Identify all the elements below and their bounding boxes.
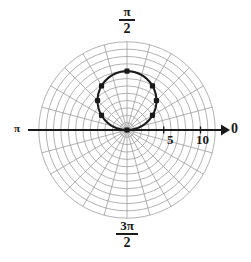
data-point-marker [99,83,104,88]
data-point-marker [154,98,159,103]
angle-label-pi-over-2-numerator: π [109,5,145,18]
grid-spoke [51,130,127,174]
grid-spoke [127,130,203,174]
polar-plot-figure: π 2 3π 2 π 0 5 10 [0,0,251,262]
data-point-marker [150,113,155,118]
angle-label-3pi-over-2-numerator: 3π [107,219,147,232]
radial-tick-label-10: 10 [196,132,209,148]
grid-spoke [127,130,189,192]
grid-spoke [83,130,127,206]
grid-spoke [127,130,171,206]
angle-label-pi-over-2-denominator: 2 [109,22,145,36]
angle-label-zero: 0 [231,121,238,137]
data-point-marker [124,127,129,132]
radial-tick-label-5: 5 [167,132,174,148]
data-point-marker [99,113,104,118]
angle-label-pi-over-2: π 2 [109,5,145,36]
data-point-marker [95,98,100,103]
angle-label-3pi-over-2-denominator: 2 [107,236,147,250]
data-point-marker [124,69,129,74]
angle-label-3pi-over-2: 3π 2 [107,219,147,250]
angle-label-pi: π [14,122,20,134]
data-point-marker [150,83,155,88]
grid-spoke [51,86,127,130]
grid-spoke [65,130,127,192]
grid-spoke [127,86,203,130]
axis-arrowhead [221,125,230,136]
